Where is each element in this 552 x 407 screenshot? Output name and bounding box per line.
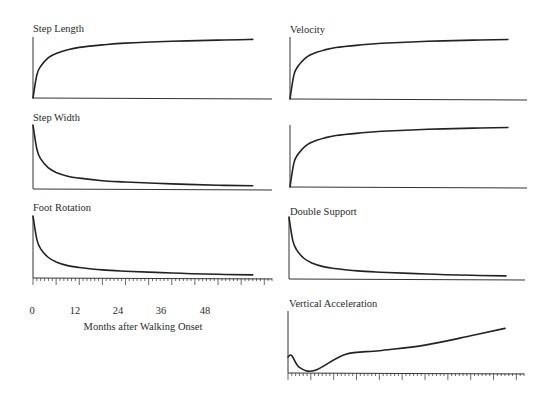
data-curve xyxy=(33,216,253,275)
panel-title-vertical-acceleration: Vertical Acceleration xyxy=(289,298,378,309)
x-tick-label: 36 xyxy=(156,305,167,316)
panel-title-step-length: Step Length xyxy=(33,23,85,34)
axes xyxy=(289,217,525,280)
panel-step-length xyxy=(33,37,272,99)
data-curve xyxy=(289,217,506,276)
panel-double-support xyxy=(289,217,525,280)
axes xyxy=(33,125,272,190)
axes xyxy=(290,37,527,100)
panel-title-step-width: Step Width xyxy=(33,112,81,123)
panel-step-width xyxy=(33,125,272,190)
panel-title-double-support: Double Support xyxy=(290,206,357,217)
panel-unlabeled xyxy=(290,125,527,188)
axes xyxy=(288,311,524,374)
gait-development-figure: Step Length Step Width Foot Rotation Vel… xyxy=(0,0,552,407)
data-curve xyxy=(290,128,508,188)
x-axis-label: Months after Walking Onset xyxy=(84,321,203,332)
axes xyxy=(33,216,272,279)
data-curve xyxy=(33,39,253,98)
panel-vertical-acceleration xyxy=(288,311,524,380)
panel-velocity xyxy=(290,37,527,100)
panel-title-foot-rotation: Foot Rotation xyxy=(33,202,92,213)
axes xyxy=(33,37,272,99)
axes xyxy=(290,125,527,188)
panel-title-velocity: Velocity xyxy=(290,24,326,35)
panel-foot-rotation xyxy=(33,216,272,285)
data-curve xyxy=(288,328,505,371)
x-axis-tick-labels: 0 12 24 36 48 xyxy=(29,305,210,316)
data-curve xyxy=(290,40,508,100)
data-curve xyxy=(33,125,253,186)
x-tick-label: 24 xyxy=(113,305,124,316)
x-tick-label: 12 xyxy=(70,305,81,316)
x-tick-label: 0 xyxy=(29,305,34,316)
x-tick-label: 48 xyxy=(200,305,211,316)
